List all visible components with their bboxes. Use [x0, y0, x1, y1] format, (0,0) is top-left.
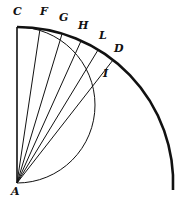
line-AF — [17, 29, 40, 183]
label-L: L — [99, 30, 107, 41]
line-AG — [17, 34, 62, 183]
label-F: F — [40, 6, 48, 17]
line-AH — [17, 41, 81, 183]
label-A: A — [11, 186, 20, 197]
label-D: D — [114, 43, 124, 54]
label-H: H — [78, 20, 88, 31]
line-AL — [17, 50, 98, 183]
label-C: C — [13, 6, 22, 17]
line-AD — [17, 60, 113, 183]
geometry-figure — [0, 0, 186, 208]
label-G: G — [59, 12, 68, 23]
label-I: I — [103, 68, 108, 79]
